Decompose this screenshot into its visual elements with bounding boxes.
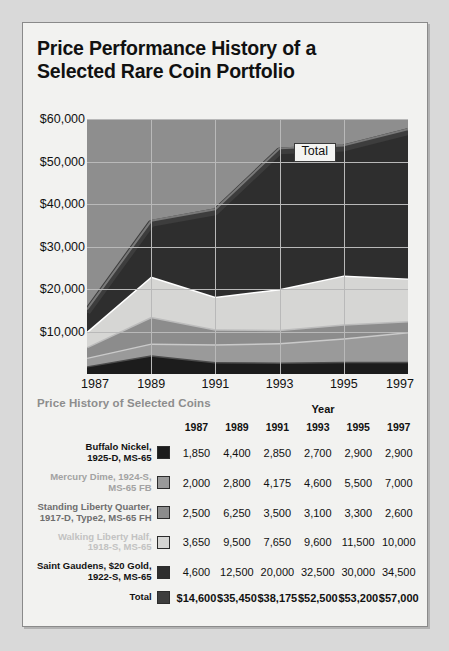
table-cell-value: 11,500 [338,528,378,558]
y-axis-tick-label: $30,000 [23,240,85,254]
row-label-line-2: 1917-D, Type2, MS-65 FH [37,513,152,524]
table-cell-value: $52,500 [298,587,338,608]
x-axis-tick-label: 1991 [201,377,229,391]
title-line-1: Price Performance History of a [37,37,387,60]
legend-swatch [157,591,170,604]
x-axis-tick-label: 1995 [330,377,358,391]
row-label: Total [37,587,157,608]
table-cell-value: 7,000 [378,468,419,498]
legend-swatch-cell [157,587,177,608]
table-cell-value: 9,600 [298,528,338,558]
y-axis-tick-label: $60,000 [23,112,85,126]
row-label-line-2: 1918-S, MS-65 [37,542,152,553]
table-body: Buffalo Nickel,1925-D, MS-651,8504,4002,… [37,438,419,608]
table-cell-value: 30,000 [338,557,378,587]
x-axis-tick-label: 1997 [386,377,414,391]
legend-swatch [157,536,170,549]
table-cell-value: $57,000 [378,587,419,608]
column-header-year: 1997 [378,419,419,438]
swatch-header [157,419,177,438]
year-header: Year [223,403,423,415]
y-axis-labels: $10,000$20,000$30,000$40,000$50,000$60,0… [23,119,85,374]
gridline-horizontal [87,289,408,290]
table-cell-value: 2,850 [257,438,297,468]
legend-swatch-cell [157,438,177,468]
table-cell-value: 4,600 [176,557,216,587]
table-cell-value: 1,850 [176,438,216,468]
table-cell-value: 7,650 [257,528,297,558]
legend-swatch-cell [157,528,177,558]
x-axis-labels: 198719891991199319951997 [87,377,408,397]
table-cell-value: 5,500 [338,468,378,498]
table-cell-value: 32,500 [298,557,338,587]
table-cell-value: $38,175 [257,587,297,608]
row-label: Buffalo Nickel,1925-D, MS-65 [37,438,157,468]
table-cell-value: 6,250 [217,498,257,528]
table-cell-value: 20,000 [257,557,297,587]
gridline-horizontal [87,119,408,120]
table-cell-value: $14,600 [176,587,216,608]
row-label-line-1: Standing Liberty Quarter, [37,502,152,513]
price-history-table: 198719891991199319951997 Buffalo Nickel,… [37,419,419,608]
row-label-line-2: MS-65 FB [37,483,152,494]
area-chart: $10,000$20,000$30,000$40,000$50,000$60,0… [23,109,429,394]
table-cell-value: $53,200 [338,587,378,608]
chart-plot-area [87,119,408,374]
legend-swatch [157,566,170,579]
y-axis-tick-label: $50,000 [23,155,85,169]
table-cell-value: 9,500 [217,528,257,558]
table-cell-value: 3,100 [298,498,338,528]
gridline-horizontal [87,247,408,248]
table-row: Standing Liberty Quarter,1917-D, Type2, … [37,498,419,528]
coin-label-header [37,419,157,438]
legend-swatch-cell [157,557,177,587]
table-cell-value: 2,900 [338,438,378,468]
row-label-line-2: 1925-D, MS-65 [37,453,152,464]
table-cell-value: $35,450 [217,587,257,608]
title-line-2: Selected Rare Coin Portfolio [37,60,387,83]
price-history-table-block: Price History of Selected Coins Year 198… [23,397,429,612]
gridline-horizontal [87,204,408,205]
row-label: Standing Liberty Quarter,1917-D, Type2, … [37,498,157,528]
x-axis-tick-label: 1989 [137,377,165,391]
table-row: Mercury Dime, 1924-S,MS-65 FB2,0002,8004… [37,468,419,498]
gridline-horizontal [87,332,408,333]
table-cell-value: 10,000 [378,528,419,558]
x-axis-tick-label: 1993 [266,377,294,391]
y-axis-tick-label: $20,000 [23,282,85,296]
total-annotation-label: Total [294,143,336,162]
table-header-row: 198719891991199319951997 [37,419,419,438]
column-header-year: 1991 [257,419,297,438]
table-cell-value: 2,700 [298,438,338,468]
row-label-line-2: 1922-S, MS-65 [37,572,152,583]
gridline-horizontal [87,162,408,163]
table-cell-value: 3,650 [176,528,216,558]
column-header-year: 1987 [176,419,216,438]
x-axis-tick-label: 1987 [81,377,109,391]
legend-swatch-cell [157,498,177,528]
row-label: Walking Liberty Half,1918-S, MS-65 [37,528,157,558]
table-cell-value: 3,500 [257,498,297,528]
table-row: Walking Liberty Half,1918-S, MS-653,6509… [37,528,419,558]
table-row: Total$14,600$35,450$38,175$52,500$53,200… [37,587,419,608]
legend-swatch [157,506,170,519]
table-cell-value: 2,500 [176,498,216,528]
table-cell-value: 2,900 [378,438,419,468]
row-label: Saint Gaudens, $20 Gold,1922-S, MS-65 [37,557,157,587]
table-cell-value: 2,600 [378,498,419,528]
row-label-line-1: Total [37,592,152,603]
legend-swatch [157,476,170,489]
table-cell-value: 4,600 [298,468,338,498]
table-cell-value: 3,300 [338,498,378,528]
table-subtitle: Price History of Selected Coins [37,397,211,409]
table-cell-value: 2,800 [217,468,257,498]
table-cell-value: 2,000 [176,468,216,498]
row-label: Mercury Dime, 1924-S,MS-65 FB [37,468,157,498]
table-head: 198719891991199319951997 [37,419,419,438]
table-cell-value: 4,175 [257,468,297,498]
legend-swatch [157,446,170,459]
table-cell-value: 12,500 [217,557,257,587]
column-header-year: 1993 [298,419,338,438]
table-cell-value: 4,400 [217,438,257,468]
chart-card: Price Performance History of a Selected … [22,22,428,627]
